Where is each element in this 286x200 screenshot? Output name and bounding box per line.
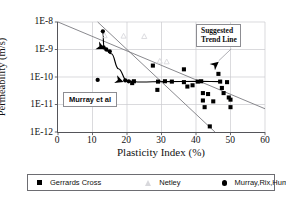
trend-leader-line bbox=[219, 49, 231, 61]
data-point-gerrards-cross-20 bbox=[218, 80, 222, 84]
x-tick-10: 10 bbox=[80, 135, 104, 145]
data-point-gerrards-cross-4 bbox=[156, 80, 160, 84]
data-point-gerrards-cross-26 bbox=[228, 105, 232, 109]
data-point-murray-rix-humphrey-0 bbox=[96, 78, 100, 82]
data-point-gerrards-cross-23 bbox=[225, 80, 229, 84]
x-axis-title: Plasticity Index (%) bbox=[57, 146, 265, 158]
murray-et-al-label: Murray et al bbox=[63, 92, 117, 107]
suggested-trend-line-label-line2: Trend Line bbox=[201, 36, 237, 45]
data-point-netley-4 bbox=[164, 59, 169, 64]
y-axis-title: Permeability (m/s) bbox=[0, 18, 12, 136]
x-tick-20: 20 bbox=[114, 135, 138, 145]
data-point-gerrards-cross-9 bbox=[185, 85, 189, 89]
data-point-gerrards-cross-14 bbox=[201, 98, 205, 102]
data-point-gerrards-cross-22 bbox=[222, 91, 226, 95]
x-tick-50: 50 bbox=[218, 135, 242, 145]
data-point-gerrards-cross-3 bbox=[155, 88, 159, 92]
data-point-gerrards-cross-25 bbox=[228, 98, 232, 102]
data-point-gerrards-cross-8 bbox=[182, 80, 186, 84]
data-point-gerrards-cross-17 bbox=[208, 124, 212, 128]
data-point-gerrards-cross-13 bbox=[201, 91, 205, 95]
data-point-murray-rix-humphrey-4 bbox=[108, 49, 112, 53]
x-tick-40: 40 bbox=[184, 135, 208, 145]
legend-label-netley: Netley bbox=[159, 178, 180, 187]
data-point-gerrards-cross-21 bbox=[220, 86, 224, 90]
legend-item-netley: Netley bbox=[145, 178, 180, 187]
data-point-gerrards-cross-18 bbox=[211, 99, 215, 103]
legend-label-gerrards-cross: Gerrards Cross bbox=[50, 178, 101, 187]
y-tick-1e-10: 1E-10 bbox=[19, 73, 53, 82]
data-point-gerrards-cross-19 bbox=[216, 72, 220, 76]
legend-item-gerrards-cross: Gerrards Cross bbox=[36, 178, 101, 187]
data-point-netley-2 bbox=[142, 34, 147, 39]
suggested-trend-line-label: Suggested Trend Line bbox=[196, 24, 241, 47]
square-marker-icon bbox=[36, 178, 45, 187]
y-tick-labels: 1E-8 1E-9 1E-10 1E-11 1E-12 bbox=[17, 22, 53, 133]
data-point-gerrards-cross-2 bbox=[151, 64, 155, 68]
data-point-gerrards-cross-5 bbox=[163, 79, 167, 83]
data-point-gerrards-cross-1 bbox=[132, 79, 136, 83]
data-point-gerrards-cross-16 bbox=[206, 92, 210, 96]
data-point-gerrards-cross-7 bbox=[182, 67, 186, 71]
x-tick-0: 0 bbox=[45, 135, 69, 145]
data-point-gerrards-cross-10 bbox=[191, 83, 195, 87]
x-tick-30: 30 bbox=[149, 135, 173, 145]
y-tick-1e-9: 1E-9 bbox=[19, 45, 53, 54]
triangle-marker-icon bbox=[145, 178, 154, 187]
y-tick-1e-11: 1E-11 bbox=[19, 100, 53, 109]
y-tick-1e-8: 1E-8 bbox=[19, 17, 53, 26]
data-point-gerrards-cross-15 bbox=[203, 105, 207, 109]
legend-item-murray-rix-humphrey: Murray,Rix,Humphrey bbox=[221, 178, 286, 187]
x-tick-60: 60 bbox=[253, 135, 277, 145]
chart-legend: Gerrards Cross Netley Murray,Rix,Humphre… bbox=[27, 174, 275, 191]
series-netley bbox=[102, 33, 169, 64]
data-point-gerrards-cross-6 bbox=[170, 80, 174, 84]
data-point-gerrards-cross-12 bbox=[199, 79, 203, 83]
permeability-plasticity-figure: Permeability (m/s) 1E-8 1E-9 1E-10 1E-11… bbox=[0, 0, 286, 200]
data-point-murray-rix-humphrey-6 bbox=[127, 79, 131, 83]
data-point-murray-rix-humphrey-1 bbox=[101, 29, 105, 33]
circle-marker-icon bbox=[221, 178, 230, 187]
legend-label-murray-rix-humphrey: Murray,Rix,Humphrey bbox=[235, 178, 286, 187]
data-point-netley-1 bbox=[121, 33, 126, 38]
